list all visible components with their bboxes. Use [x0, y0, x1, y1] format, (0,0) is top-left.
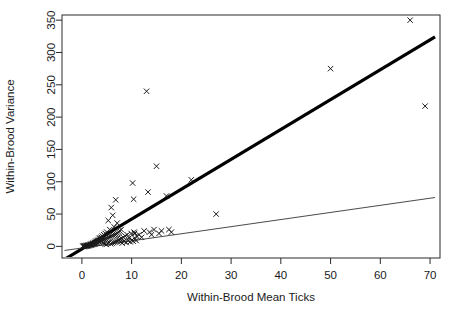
chart-figure: 010203040506070050100150200250300350With… [0, 0, 455, 318]
y-tick-label: 100 [45, 172, 57, 191]
x-tick-label: 60 [374, 269, 387, 281]
data-point [130, 180, 135, 185]
y-tick-label: 150 [45, 140, 57, 159]
fit-lines-group [64, 37, 435, 259]
data-point [106, 218, 111, 223]
data-point [110, 213, 115, 218]
y-tick-label: 0 [45, 243, 57, 249]
data-point [113, 197, 118, 202]
data-point [109, 205, 114, 210]
x-tick-label: 10 [125, 269, 138, 281]
data-point [213, 211, 218, 216]
y-tick-label: 50 [45, 208, 57, 221]
upper-fit-line [64, 37, 435, 259]
data-point [144, 89, 149, 94]
data-point [159, 228, 164, 233]
data-point [149, 232, 154, 237]
x-tick-label: 30 [225, 269, 238, 281]
y-axis-title: Within-Brood Variance [4, 79, 16, 193]
x-tick-label: 0 [79, 269, 85, 281]
data-point [131, 196, 136, 201]
data-point [141, 228, 146, 233]
data-point [407, 17, 412, 22]
y-tick-label: 300 [45, 43, 57, 62]
data-point [118, 227, 123, 232]
data-points-group [80, 17, 428, 249]
x-axis-group: 010203040506070 [79, 258, 437, 281]
y-tick-label: 350 [45, 11, 57, 30]
x-axis-title: Within-Brood Mean Ticks [187, 291, 315, 303]
x-tick-label: 40 [274, 269, 287, 281]
data-point [145, 189, 150, 194]
data-point [154, 164, 159, 169]
data-point [422, 103, 427, 108]
y-tick-label: 250 [45, 75, 57, 94]
y-tick-label: 200 [45, 108, 57, 127]
data-point [169, 229, 174, 234]
x-tick-label: 70 [424, 269, 437, 281]
data-point [328, 66, 333, 71]
x-tick-label: 20 [175, 269, 188, 281]
x-tick-label: 50 [324, 269, 337, 281]
y-axis-group: 050100150200250300350 [45, 11, 62, 250]
scatter-plot-svg: 010203040506070050100150200250300350With… [0, 0, 455, 318]
data-point [115, 220, 120, 225]
